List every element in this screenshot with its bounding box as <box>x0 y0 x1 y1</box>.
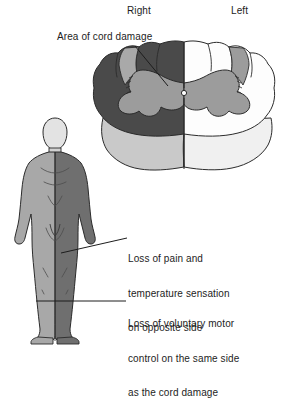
callout-motor-loss-line-2: control on the same side <box>128 353 239 365</box>
callout-motor-loss-line-1: Loss of voluntary motor <box>128 318 239 330</box>
orientation-label-right: Right <box>127 5 151 17</box>
central-canal <box>181 90 186 95</box>
human-body-figure-icon <box>15 118 96 344</box>
callout-motor-loss: Loss of voluntary motor control on the s… <box>128 295 239 402</box>
body-head <box>43 118 67 150</box>
spinal-cord-cross-section-icon <box>93 41 275 170</box>
body-foot-left <box>31 337 53 344</box>
callout-cord-damage: Area of cord damage <box>57 31 152 43</box>
orientation-label-left: Left <box>231 5 248 17</box>
body-left-half <box>15 152 55 341</box>
callout-motor-loss-line-3: as the cord damage <box>128 387 239 399</box>
body-foot-right <box>57 337 79 344</box>
callout-sensory-loss-line-1: Loss of pain and <box>128 253 230 265</box>
